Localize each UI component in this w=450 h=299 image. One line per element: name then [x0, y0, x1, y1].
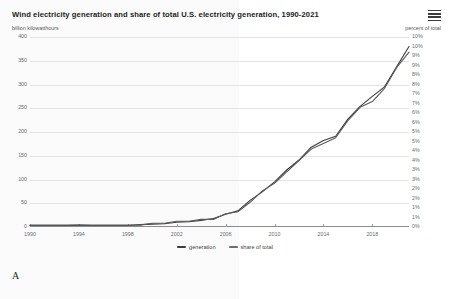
chart-figure: Wind electricity generation and share of… [8, 6, 442, 264]
data-series-lines [30, 37, 409, 227]
y-axis-right-tick-label: 10% [412, 44, 423, 49]
y-axis-left-tick-label: 400 [18, 34, 27, 39]
legend-label: generation [189, 244, 215, 250]
hamburger-line [428, 16, 441, 17]
hamburger-menu-icon[interactable] [428, 10, 441, 21]
y-axis-left-tick-label: 50 [21, 200, 27, 205]
x-axis-tick-label: 1990 [24, 231, 36, 237]
x-axis-tick-label: 2006 [220, 231, 232, 237]
legend-item[interactable]: generation [177, 244, 215, 250]
y-axis-right-caption: percent of total [405, 25, 441, 31]
legend-swatch [177, 246, 186, 248]
x-axis-tick-label: 1998 [122, 231, 134, 237]
y-axis-right-tick-label: 10% [412, 34, 423, 39]
y-axis-right-tick-label: 0% [412, 224, 420, 229]
y-axis-left-tick-label: 150 [18, 153, 27, 158]
series-line-share-of-total [30, 52, 409, 225]
y-axis-left-tick-label: 300 [18, 82, 27, 87]
chart-title: Wind electricity generation and share of… [12, 10, 319, 19]
y-axis-right-tick-label: 4% [412, 158, 420, 163]
y-axis-right-tick-label: 3% [412, 167, 420, 172]
series-line-generation [30, 47, 409, 226]
x-axis-tick-label: 2018 [366, 231, 378, 237]
y-axis-right-tick-label: 6% [412, 120, 420, 125]
y-axis-left-caption: billion kilowatthours [12, 25, 59, 31]
y-axis-right-tick-label: 8% [412, 82, 420, 87]
y-axis-right-tick-label: 9% [412, 53, 420, 58]
page-background: Wind electricity generation and share of… [0, 0, 450, 299]
y-axis-left-tick-label: 200 [18, 129, 27, 134]
y-axis-right-tick-label: 9% [412, 63, 420, 68]
y-axis-right-tick-label: 5% [412, 139, 420, 144]
legend-swatch [229, 246, 238, 248]
y-axis-right-tick-label: 2% [412, 186, 420, 191]
x-axis-baseline [30, 226, 409, 227]
legend-item[interactable]: share of total [229, 244, 273, 250]
y-axis-right-tick-label: 1% [412, 215, 420, 220]
plot-area: 050100150200250300350400 0%1%1%2%2%3%3%4… [30, 37, 409, 227]
hamburger-line [428, 13, 441, 14]
y-axis-left-tick-label: 100 [18, 177, 27, 182]
y-axis-right-tick-label: 5% [412, 129, 420, 134]
y-axis-right-tick-label: 7% [412, 101, 420, 106]
legend-label: share of total [241, 244, 273, 250]
hamburger-line [428, 10, 441, 11]
figure-panel-label: A [12, 270, 19, 281]
y-axis-left-tick-label: 350 [18, 58, 27, 63]
y-axis-right-tick-label: 2% [412, 196, 420, 201]
x-axis-tick-label: 2002 [171, 231, 183, 237]
y-axis-left-tick-label: 0 [24, 224, 27, 229]
y-axis-right-tick-label: 8% [412, 72, 420, 77]
y-axis-right-tick-label: 1% [412, 205, 420, 210]
y-axis-right-tick-label: 6% [412, 110, 420, 115]
x-axis-tick-label: 2014 [318, 231, 330, 237]
y-axis-right-tick-label: 7% [412, 91, 420, 96]
hamburger-line [428, 20, 441, 21]
y-axis-right-tick-label: 4% [412, 148, 420, 153]
x-axis-tick-label: 1994 [73, 231, 85, 237]
chart-legend: generationshare of total [8, 244, 442, 250]
y-axis-right-tick-label: 3% [412, 177, 420, 182]
y-axis-left-tick-label: 250 [18, 105, 27, 110]
x-axis-tick-label: 2010 [269, 231, 281, 237]
